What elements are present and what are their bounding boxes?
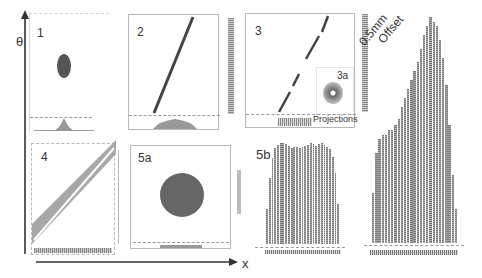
histogram-bar xyxy=(455,209,457,243)
histogram-bar xyxy=(426,26,428,243)
histogram-bar xyxy=(429,17,431,243)
inset-3a-label: 3a xyxy=(337,70,348,81)
histogram-bar xyxy=(299,148,301,244)
histogram-bar xyxy=(382,135,384,243)
sheared-line xyxy=(129,15,220,131)
offset-projection xyxy=(370,250,458,255)
histogram-bar xyxy=(310,143,312,244)
inset-3a: 3a xyxy=(316,67,354,115)
5b-baseline xyxy=(255,247,345,248)
panel-1-label: 1 xyxy=(37,26,44,40)
histogram-bar xyxy=(335,173,337,244)
histogram-bar xyxy=(410,80,412,243)
histogram-bar xyxy=(337,204,339,244)
histogram-bar xyxy=(391,130,393,243)
panel-2-side-projection xyxy=(228,18,234,114)
histogram-bar xyxy=(266,209,268,244)
histogram-bar xyxy=(280,143,282,244)
panel-4-side-line xyxy=(118,150,119,244)
histogram-bar xyxy=(329,149,331,244)
histogram-bar xyxy=(372,193,374,243)
histogram-bar xyxy=(413,71,415,243)
panel-4: 4 xyxy=(31,143,115,255)
panel-1: 1 xyxy=(29,13,109,131)
histogram-bar xyxy=(448,125,450,243)
histogram-bar xyxy=(313,144,315,244)
histogram-bar xyxy=(285,144,287,244)
disk-distribution xyxy=(160,173,204,217)
histogram-bar xyxy=(304,146,306,244)
baseline xyxy=(34,130,94,131)
histogram-bar xyxy=(324,145,326,244)
histogram-bar xyxy=(388,130,390,243)
projection-divider xyxy=(133,242,229,243)
histogram-bar xyxy=(439,40,441,243)
histogram-bar xyxy=(423,35,425,243)
histogram-bar xyxy=(307,145,309,244)
ring-distribution xyxy=(323,82,343,104)
x-axis-label: x xyxy=(242,256,249,271)
histogram-bar xyxy=(302,147,304,244)
x-axis-arrow xyxy=(36,257,238,267)
panel-5a-side-projection xyxy=(237,170,241,214)
histogram-bar xyxy=(442,58,444,243)
ellipse-distribution xyxy=(57,54,71,78)
histogram-bar xyxy=(291,148,293,244)
histogram-bar xyxy=(445,85,447,243)
projection-divider xyxy=(129,115,220,116)
offset-histogram xyxy=(372,17,458,243)
projection-4 xyxy=(34,248,112,253)
histogram-bar xyxy=(332,157,334,244)
histogram-bar xyxy=(326,147,328,244)
histogram-bar xyxy=(401,107,403,243)
histogram-bar xyxy=(417,62,419,243)
histogram-bar xyxy=(407,89,409,243)
histogram-bar xyxy=(433,22,435,243)
offset-baseline xyxy=(364,245,464,246)
5b-projection xyxy=(265,250,341,254)
histogram-bar xyxy=(269,178,271,244)
projection-5a xyxy=(160,245,202,248)
histogram-bar xyxy=(274,148,276,244)
panel-2: 2 xyxy=(128,14,219,130)
histogram-bar xyxy=(315,146,317,244)
histogram-bar xyxy=(277,145,279,244)
histogram-bar xyxy=(375,153,377,243)
histogram-bar xyxy=(296,147,298,244)
y-axis-label: θ xyxy=(16,34,23,49)
histogram-bar xyxy=(394,125,396,243)
histogram-bar xyxy=(288,146,290,244)
panel-3: 3 3a Projections xyxy=(245,13,355,128)
histogram-bar xyxy=(385,135,387,243)
projection-2 xyxy=(153,117,197,129)
histogram-bar xyxy=(321,143,323,244)
histogram-bar xyxy=(404,98,406,243)
projection-3 xyxy=(278,118,312,126)
histogram-bar xyxy=(452,175,454,243)
histogram-bar xyxy=(318,144,320,244)
histogram-bar xyxy=(378,139,380,243)
histogram-bar xyxy=(420,49,422,243)
panel-5a-label: 5a xyxy=(138,151,151,165)
histogram-bar xyxy=(282,143,284,244)
histogram-bar xyxy=(436,26,438,243)
histogram-5b xyxy=(266,143,340,244)
histogram-bar xyxy=(398,119,400,243)
projections-label: Projections xyxy=(313,114,358,124)
broad-band xyxy=(32,144,116,256)
histogram-bar xyxy=(293,147,295,244)
panel-5a: 5a xyxy=(130,145,231,249)
histogram-bar xyxy=(272,158,274,244)
